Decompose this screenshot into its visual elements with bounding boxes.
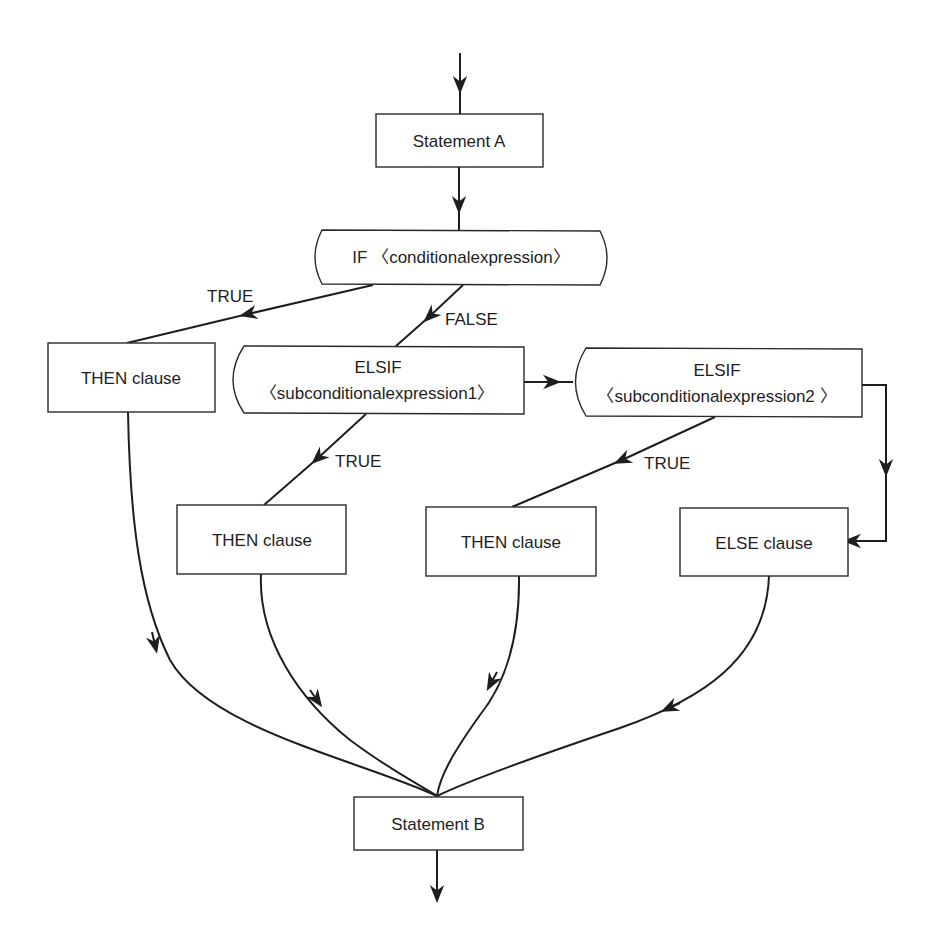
elsif1-condition: 〈subconditionalexpression1〉 (260, 384, 494, 403)
if-false-label: FALSE (445, 310, 498, 329)
statement-a-label: Statement A (413, 132, 506, 151)
edge-then1-to-statement-b (128, 412, 437, 796)
if-true-label: TRUE (207, 287, 253, 306)
edge-elsif1-true-line (264, 458, 318, 505)
node-statement-b: Statement B (354, 797, 523, 850)
node-then-clause-2: THEN clause (177, 505, 346, 574)
elsif2-keyword: ELSIF (693, 361, 740, 380)
node-else-clause: ELSE clause (680, 508, 848, 576)
node-elsif-1: ELSIF 〈subconditionalexpression1〉 (233, 346, 524, 414)
statement-b-label: Statement B (391, 815, 485, 834)
elsif1-true-label: TRUE (335, 452, 381, 471)
edge-elsif2-to-else (862, 385, 886, 468)
elsif1-keyword: ELSIF (354, 358, 401, 377)
then1-label: THEN clause (81, 369, 181, 388)
node-then-clause-3: THEN clause (426, 507, 596, 576)
then2-label: THEN clause (212, 531, 312, 550)
edge-if-true-to-then1 (248, 285, 373, 314)
node-then-clause-1: THEN clause (48, 343, 215, 412)
node-statement-a: Statement A (376, 114, 543, 167)
edges (127, 53, 886, 894)
node-elsif-2: ELSIF 〈subconditionalexpression2 〉 (576, 348, 863, 417)
elsif2-condition: 〈subconditionalexpression2 〉 (597, 387, 836, 406)
edge-if-false-line (396, 316, 430, 346)
elsif2-true-label: TRUE (644, 454, 690, 473)
if-condition-label: IF 〈conditionalexpression〉 (352, 248, 569, 267)
edge-elsif2-else-line (852, 468, 886, 541)
then3-label: THEN clause (461, 533, 561, 552)
edge-elsif2-true-line (512, 460, 622, 507)
edge-then3-to-statement-b (437, 576, 519, 796)
edge-else-to-statement-b (437, 576, 769, 796)
flowchart-canvas: Statement A IF 〈conditionalexpression〉 T… (0, 0, 933, 943)
else-label: ELSE clause (715, 534, 812, 553)
node-if-decision: IF 〈conditionalexpression〉 (315, 230, 607, 285)
edge-if-true-line (127, 314, 248, 343)
